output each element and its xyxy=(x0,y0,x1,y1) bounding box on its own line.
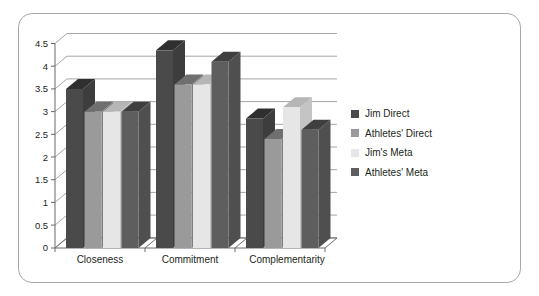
y-tick-label: 2 xyxy=(22,152,48,163)
bar-chart-figure: 4.5 4 3.5 3 2.5 2 1.5 1 0.5 0 Closeness … xyxy=(0,0,539,296)
legend-item-athletes-direct[interactable]: Athletes' Direct xyxy=(351,124,501,144)
chart-legend: Jim Direct Athletes' Direct Jim's Meta A… xyxy=(351,104,501,182)
y-tick-label: 1.5 xyxy=(22,174,48,185)
legend-item-label: Athletes' Meta xyxy=(365,167,428,178)
x-tick-label-closeness: Closeness xyxy=(60,254,140,265)
bar-commitment-athletes-meta xyxy=(212,52,241,248)
legend-item-label: Athletes' Direct xyxy=(365,128,432,139)
legend-swatch-icon xyxy=(351,168,359,176)
legend-item-jims-meta[interactable]: Jim's Meta xyxy=(351,143,501,163)
y-tick-label: 0 xyxy=(22,242,48,253)
legend-item-athletes-meta[interactable]: Athletes' Meta xyxy=(351,163,501,183)
y-tick-label: 0.5 xyxy=(22,220,48,231)
y-tick-label: 4.5 xyxy=(22,38,48,49)
x-tick-label-commitment: Commitment xyxy=(150,254,230,265)
bar-closeness-athletes-meta xyxy=(122,102,151,248)
legend-item-label: Jim's Meta xyxy=(365,147,412,158)
y-tick-label: 3.5 xyxy=(22,83,48,94)
y-tick-label: 4 xyxy=(22,61,48,72)
y-axis-line xyxy=(51,44,55,249)
y-tick-label: 1 xyxy=(22,197,48,208)
y-tick-label: 2.5 xyxy=(22,129,48,140)
legend-item-jim-direct[interactable]: Jim Direct xyxy=(351,104,501,124)
legend-swatch-icon xyxy=(351,110,359,118)
x-tick-label-complementarity: Complementarity xyxy=(232,254,342,265)
y-tick-label: 3 xyxy=(22,106,48,117)
axis-depth-connectors xyxy=(55,34,67,248)
legend-swatch-icon xyxy=(351,149,359,157)
legend-item-label: Jim Direct xyxy=(365,108,409,119)
legend-swatch-icon xyxy=(351,129,359,137)
bar-complementarity-athletes-meta xyxy=(302,120,331,248)
